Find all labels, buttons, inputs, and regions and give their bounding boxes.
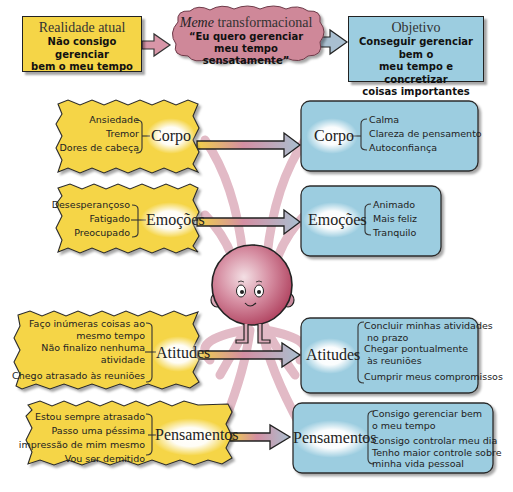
right-atitudes-item: no prazo bbox=[364, 332, 503, 344]
left-atitudes-item: Não finalizo nenhuma bbox=[12, 342, 145, 354]
right-pensamentos-item: Tenho maior controle sobre bbox=[372, 447, 502, 459]
right-corpo-item: Autoconfiança bbox=[369, 141, 482, 155]
left-pensamentos-item: Estou sempre atrasado bbox=[19, 410, 145, 424]
right-emocoes-item: Mais feliz bbox=[373, 212, 417, 226]
right-atitudes-items: Concluir minhas atividades no prazo Cheg… bbox=[364, 320, 503, 383]
right-atitudes-label: Atitudes bbox=[306, 346, 360, 364]
objective-title: Objetivo bbox=[349, 19, 483, 36]
right-atitudes-item: às reuniões bbox=[364, 355, 503, 367]
right-corpo-label: Corpo bbox=[314, 127, 354, 145]
left-pensamentos-item: Vou ser demitido bbox=[19, 452, 145, 466]
objective-line-1: Conseguir gerenciar bem o bbox=[349, 36, 483, 61]
right-pensamentos-item: o meu tempo bbox=[372, 420, 502, 432]
left-atitudes-item: Chego atrasado às reuniões bbox=[12, 370, 145, 382]
meme-title-italic: Meme bbox=[180, 15, 214, 30]
meme-line-2: meu tempo sensatamente” bbox=[172, 43, 320, 67]
left-pensamentos-label: Pensamentos bbox=[155, 426, 239, 444]
current-reality-box: Realidade atual Não consigo gerenciar be… bbox=[22, 16, 142, 72]
current-reality-line-2: bem o meu tempo bbox=[23, 61, 141, 74]
right-emocoes-label: Emoções bbox=[308, 211, 367, 229]
left-corpo-items: Ansiedade Tremor Dores de cabeça bbox=[60, 113, 140, 155]
current-reality-title: Realidade atual bbox=[23, 19, 141, 36]
right-emocoes-item: Animado bbox=[373, 198, 417, 212]
meme-box: Meme transformacional “Eu quero gerencia… bbox=[172, 10, 320, 64]
left-atitudes-items: Faço inúmeras coisas ao mesmo tempo Não … bbox=[12, 318, 145, 382]
right-atitudes-item: Concluir minhas atividades bbox=[364, 320, 503, 332]
right-emocoes-items: Animado Mais feliz Tranquilo bbox=[373, 198, 417, 240]
right-pensamentos-label: Pensamentos bbox=[293, 429, 377, 447]
left-atitudes-item: Faço inúmeras coisas ao bbox=[12, 318, 145, 330]
right-corpo-item: Calma bbox=[369, 113, 482, 127]
right-corpo-items: Calma Clareza de pensamento Autoconfianç… bbox=[369, 113, 482, 155]
left-pensamentos-items: Estou sempre atrasado Passo uma péssima … bbox=[19, 410, 145, 466]
right-pensamentos-item: Consigo gerenciar bem bbox=[372, 408, 502, 420]
left-corpo-item: Ansiedade bbox=[60, 113, 140, 127]
objective-box: Objetivo Conseguir gerenciar bem o meu t… bbox=[348, 16, 484, 82]
left-emocoes-label: Emoções bbox=[146, 211, 205, 229]
left-corpo-label: Corpo bbox=[151, 127, 191, 145]
left-pensamentos-item: impressão de mim mesmo bbox=[19, 438, 145, 452]
left-pensamentos-item: Passo uma péssima bbox=[19, 424, 145, 438]
right-atitudes-item: Chegar pontualmente bbox=[364, 343, 503, 355]
meme-title-rest: transformacional bbox=[214, 15, 312, 30]
left-emocoes-item: Fatigado bbox=[52, 212, 130, 226]
arrow-emocoes bbox=[197, 210, 300, 234]
left-emocoes-item: Desesperançoso bbox=[52, 198, 130, 212]
right-pensamentos-item: minha vida pessoal bbox=[372, 458, 502, 470]
right-atitudes-item: Cumprir meus compromissos bbox=[364, 371, 503, 383]
left-atitudes-item: atividade bbox=[12, 354, 145, 366]
character-head bbox=[212, 245, 292, 325]
meme-title: Meme transformacional bbox=[172, 10, 320, 31]
right-corpo-item: Clareza de pensamento bbox=[369, 127, 482, 141]
left-emocoes-items: Desesperançoso Fatigado Preocupado bbox=[52, 198, 130, 240]
right-pensamentos-item: Consigo controlar meu dia bbox=[372, 435, 502, 447]
left-atitudes-item: mesmo tempo bbox=[12, 330, 145, 342]
left-corpo-item: Dores de cabeça bbox=[60, 141, 140, 155]
top-arrow-1 bbox=[142, 34, 170, 56]
right-pensamentos-items: Consigo gerenciar bem o meu tempo Consig… bbox=[372, 408, 502, 470]
arrow-pensamentos bbox=[230, 425, 290, 449]
meme-line-1: “Eu quero gerenciar bbox=[172, 31, 320, 43]
current-reality-line-1: Não consigo gerenciar bbox=[23, 36, 141, 61]
left-emocoes-item: Preocupado bbox=[52, 226, 130, 240]
right-emocoes-item: Tranquilo bbox=[373, 226, 417, 240]
objective-line-3: coisas importantes bbox=[349, 86, 483, 99]
left-corpo-item: Tremor bbox=[60, 127, 140, 141]
objective-line-2: meu tempo e concretizar bbox=[349, 61, 483, 86]
left-atitudes-label: Atitudes bbox=[156, 344, 210, 362]
